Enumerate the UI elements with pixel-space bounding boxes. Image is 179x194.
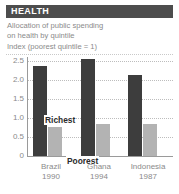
x-label-group-indonesia: Indonesia 1987 — [123, 162, 173, 182]
chart-plot-area: 2.5 2.0 1.5 1.0 0.5 0 — [6, 57, 173, 161]
index-note: Index (poorest quintile = 1) — [7, 42, 97, 52]
bar-group-ghana — [81, 57, 111, 156]
card-subtitle-line-2: on health by quintile — [7, 31, 173, 41]
x-label-year-indonesia: 1987 — [123, 172, 173, 182]
card-subtitle-line-1: Allocation of public spending — [7, 21, 173, 31]
card-header-title: HEALTH — [6, 5, 49, 18]
card-header: HEALTH — [6, 5, 173, 18]
chart-bar-groups — [6, 57, 173, 156]
bar-group-brazil — [33, 57, 63, 156]
bar-indonesia-richest[interactable] — [128, 75, 142, 156]
bar-indonesia-poorest[interactable] — [143, 124, 157, 156]
x-label-group-ghana: Ghana 1994 — [75, 162, 123, 182]
header-divider — [6, 54, 173, 56]
health-chart-card: HEALTH Allocation of public spending on … — [0, 0, 179, 194]
x-axis-line — [27, 156, 173, 157]
x-label-year-ghana: 1994 — [75, 172, 123, 182]
x-label-country-indonesia: Indonesia — [123, 162, 173, 172]
x-label-country-brazil: Brazil — [27, 162, 75, 172]
x-label-year-brazil: 1990 — [27, 172, 75, 182]
bar-ghana-poorest[interactable] — [96, 124, 110, 156]
card-subtitle: Allocation of public spending on health … — [7, 21, 173, 40]
x-axis-labels: Brazil 1990 Ghana 1994 Indonesia 1987 — [27, 162, 173, 190]
bar-group-indonesia — [128, 57, 158, 156]
x-label-group-brazil: Brazil 1990 — [27, 162, 75, 182]
bar-brazil-poorest[interactable] — [48, 127, 62, 156]
bar-ghana-richest[interactable] — [81, 59, 95, 156]
bar-brazil-richest[interactable] — [33, 66, 47, 156]
series-label-richest: Richest — [44, 115, 76, 125]
x-label-country-ghana: Ghana — [75, 162, 123, 172]
